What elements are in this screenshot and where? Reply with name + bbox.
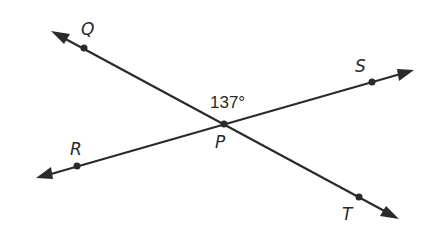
arrowhead-r-end	[36, 167, 53, 179]
arrowhead-s-end	[397, 69, 414, 81]
point-s	[369, 79, 376, 86]
arrowhead-q-end	[51, 31, 70, 44]
point-t	[356, 194, 363, 201]
geometry-figure: Q S R T P 137°	[0, 0, 435, 231]
label-s: S	[355, 56, 366, 76]
arrowhead-t-end	[380, 206, 399, 219]
label-q: Q	[81, 19, 94, 39]
point-p	[221, 121, 228, 128]
point-q	[81, 45, 88, 52]
label-t: T	[342, 204, 354, 224]
point-r	[74, 163, 81, 170]
angle-measure-label: 137°	[210, 93, 245, 112]
label-p: P	[215, 132, 226, 152]
label-r: R	[70, 139, 82, 159]
intersecting-lines-diagram: Q S R T P 137°	[0, 0, 435, 231]
